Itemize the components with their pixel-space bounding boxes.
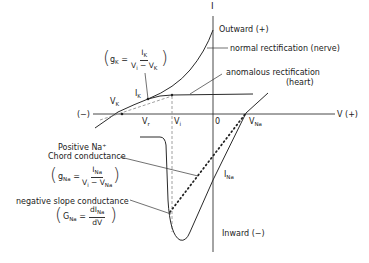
- origin-label: 0: [215, 117, 220, 126]
- anomalous-heart-label: (heart): [286, 78, 314, 87]
- anomalous-rectification-label: anomalous rectification: [226, 68, 320, 77]
- chord-pointer: [120, 157, 198, 176]
- inward-label: Inward (−): [222, 229, 265, 238]
- vna-label: VNa: [249, 117, 262, 129]
- positive-na-label: Positive Na⁺: [58, 143, 107, 152]
- anomalous-rectification-curve: [148, 94, 253, 99]
- vi-label: Vi: [174, 117, 181, 129]
- gk-pointer: [145, 73, 148, 99]
- ik-point: [147, 98, 150, 101]
- vk-point: [121, 113, 124, 116]
- vi-point: [171, 94, 173, 96]
- ik-label: IK: [135, 89, 141, 101]
- normal-rectification-curve: [95, 30, 213, 128]
- chord-conductance-label: Chord conductance: [48, 152, 126, 161]
- na-chord-dotted: [170, 113, 246, 212]
- normal-rectification-label: normal rectification (nerve): [230, 44, 340, 53]
- slope-pointer: [130, 200, 171, 214]
- anomalous-rect-pointer: [190, 74, 222, 94]
- vr-label: Vr: [142, 117, 150, 129]
- v-axis-label: V (+): [337, 110, 358, 119]
- ina-label: INa: [224, 170, 234, 182]
- negative-label: (−): [77, 110, 90, 119]
- outward-label: Outward (+): [219, 25, 269, 34]
- vk-label: VK: [110, 97, 119, 109]
- i-axis-label: I: [211, 2, 214, 11]
